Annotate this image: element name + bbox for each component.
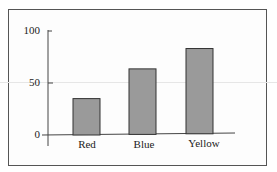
y-tick-label-100: 100 [16, 24, 40, 36]
x-label-yellow: Yellow [179, 137, 229, 149]
bar-red [73, 99, 100, 135]
y-tick-label-50: 50 [16, 76, 40, 88]
y-tick-label-0: 0 [16, 128, 40, 140]
bar-blue [129, 69, 156, 135]
x-label-blue: Blue [119, 138, 169, 150]
x-label-red: Red [62, 138, 112, 150]
bar-yellow [186, 49, 213, 134]
